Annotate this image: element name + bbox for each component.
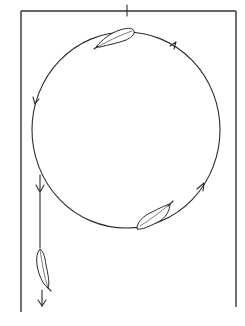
- feather-falling-quill: [47, 287, 51, 291]
- feather-top: [94, 28, 134, 49]
- diagram-canvas: Feather circling inside a rectangular fr…: [0, 0, 245, 326]
- feather-path-diagram: [0, 0, 245, 326]
- circular-path: [32, 32, 220, 228]
- feather-bottom-quill: [168, 201, 173, 206]
- direction-arrows: [33, 42, 204, 306]
- frame: [21, 5, 236, 312]
- feather-bottom: [137, 201, 173, 229]
- feather-falling-vane: [37, 249, 49, 288]
- feather-falling: [37, 249, 51, 291]
